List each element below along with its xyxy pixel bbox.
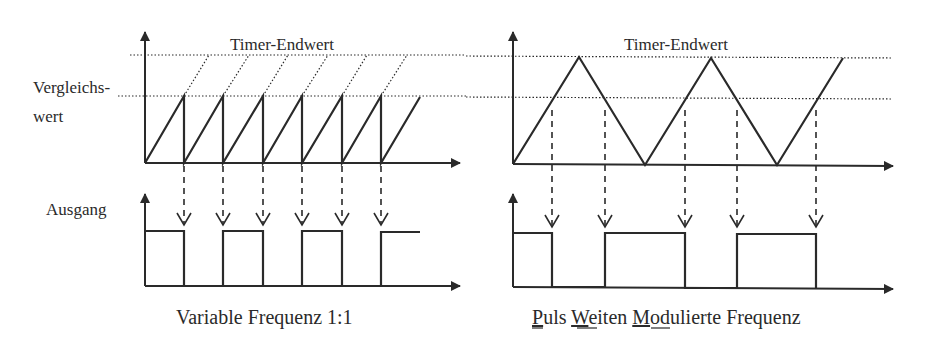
left-output-square-wave — [145, 231, 420, 286]
left-ramp-continuations — [184, 55, 407, 96]
right-timer-end-line — [466, 56, 893, 58]
left-panel-variable-frequency: Timer-Endwert Vergleichs- wert Ausgang — [33, 32, 466, 329]
sawtooth-signal — [145, 96, 420, 163]
left-caption: Variable Frequenz 1:1 — [176, 306, 353, 329]
right-compare-value-line — [466, 97, 893, 99]
caption-initial-p: P — [532, 306, 543, 328]
triangle-signal — [513, 57, 843, 165]
compare-value-label-line2: wert — [33, 107, 63, 126]
right-compare-event-arrows — [545, 110, 823, 227]
left-timer-end-label: Timer-Endwert — [230, 35, 334, 54]
right-caption: Puls Weiten Modulierte Frequenz — [532, 306, 801, 329]
caption-initial-w: W — [571, 306, 590, 328]
output-label: Ausgang — [46, 200, 107, 219]
caption-initial-m: M — [632, 306, 650, 328]
left-compare-event-arrows — [177, 166, 388, 225]
caption-part-uls: uls — [543, 306, 571, 328]
caption-part-odulierte: odulierte Frequenz — [650, 306, 801, 329]
pwm-output-wave — [513, 233, 816, 288]
pwm-timing-diagram: Timer-Endwert Vergleichs- wert Ausgang — [0, 0, 932, 340]
right-x-axis — [513, 164, 893, 166]
compare-value-label-line1: Vergleichs- — [33, 78, 110, 97]
caption-part-eiten: eiten — [588, 306, 632, 328]
right-timer-end-label: Timer-Endwert — [624, 35, 728, 54]
right-panel-pwm: Timer-Endwert Puls Weiten Modulier — [466, 32, 893, 329]
